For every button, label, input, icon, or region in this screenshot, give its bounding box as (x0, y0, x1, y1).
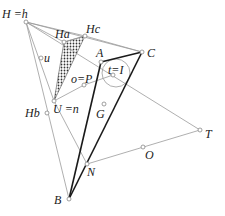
label-a: A (95, 46, 104, 60)
point-labels: H =hHaHcACt=Io=PuU =nHbGNOTB (1, 7, 213, 207)
label-hb: Hb (24, 106, 40, 120)
label-t: T (205, 127, 213, 141)
label-u: U =n (53, 102, 79, 116)
point-g-icon (102, 102, 106, 106)
label-i: t=I (108, 63, 124, 77)
label-hc: Hc (85, 22, 101, 36)
label-h: H =h (1, 7, 28, 21)
segment-hc-c (85, 36, 142, 52)
geometry-diagram: H =hHaHcACt=Io=PuU =nHbGNOTB (0, 0, 225, 216)
point-b-icon (67, 197, 71, 201)
label-u: u (44, 51, 50, 65)
point-u-icon (39, 56, 43, 60)
label-p: o=P (71, 72, 93, 86)
point-t-icon (198, 128, 202, 132)
label-c: C (147, 46, 156, 60)
point-hb-icon (45, 111, 49, 115)
point-c-icon (140, 50, 144, 54)
label-g: G (96, 107, 105, 121)
label-o: O (145, 148, 154, 162)
label-n: N (86, 165, 96, 179)
point-a-icon (99, 60, 103, 64)
label-ha: Ha (54, 27, 70, 41)
label-b: B (54, 193, 62, 207)
hatched-triangle (54, 36, 85, 101)
